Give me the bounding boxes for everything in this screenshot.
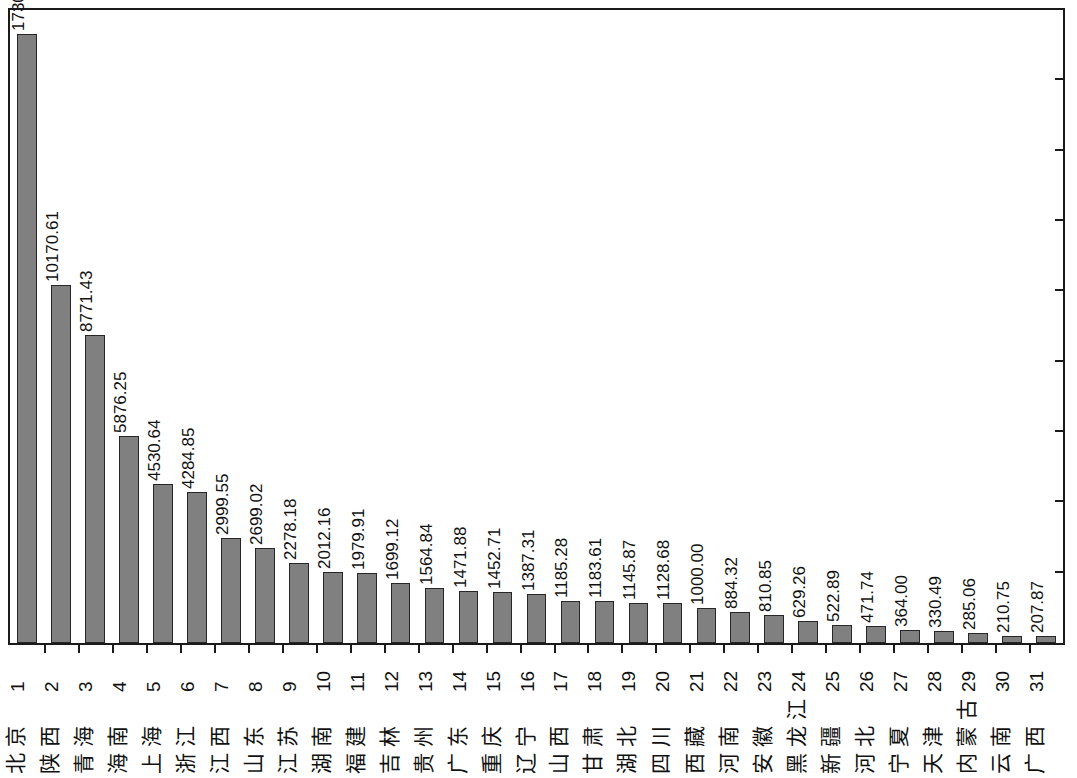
x-tick-slot [44,645,78,653]
bars-layer: 17308.0910170.618771.435876.254530.64428… [10,10,1063,643]
bar-value-label: 4530.64 [146,419,163,480]
x-category-label: 吉林 [380,720,401,774]
x-category-label: 安徽 [753,720,774,774]
x-tick-mark [112,645,114,653]
index-label-slot: 30 [995,656,1029,696]
x-tick-slot [78,645,112,653]
bar[interactable]: 471.74 [866,626,886,643]
bar[interactable]: 4530.64 [153,484,173,643]
x-tick-mark [655,645,657,653]
index-label-slot: 5 [146,656,180,696]
x-tick-mark [78,645,80,653]
index-label-slot: 7 [214,656,248,696]
x-tick-mark [927,645,929,653]
x-index-label: 18 [585,671,604,692]
index-label-slot: 11 [350,656,384,696]
bar[interactable]: 884.32 [730,612,750,643]
bar[interactable]: 2699.02 [255,548,275,643]
bar-value-label: 1387.31 [520,530,537,591]
bar-value-label: 2699.02 [248,484,265,545]
bar[interactable]: 10170.61 [51,285,71,643]
bar[interactable]: 17308.09 [17,34,37,643]
bar[interactable]: 1979.91 [357,573,377,643]
bar-value-label: 210.75 [995,581,1012,633]
x-tick-mark [452,645,454,653]
bar[interactable]: 8771.43 [85,335,105,643]
bar-slot: 4530.64 [146,10,180,643]
x-category-label: 陕西 [40,720,61,774]
x-tick-mark [791,645,793,653]
bar[interactable]: 1387.31 [527,594,547,643]
x-category-label: 辽宁 [516,720,537,774]
x-tick-slot [112,645,146,653]
bar[interactable]: 810.85 [764,615,784,644]
x-tick-mark [384,645,386,653]
x-category-label: 青海 [74,720,95,774]
x-index-label: 12 [382,671,401,692]
bar-slot: 1471.88 [452,10,486,643]
x-category-label: 海南 [108,720,129,774]
index-label-slot: 24 [791,656,825,696]
bar[interactable]: 1128.68 [663,603,683,643]
x-category-label: 四川 [651,720,672,774]
x-index-label: 19 [619,671,638,692]
bar-value-label: 1564.84 [418,524,435,585]
x-tick-slot [146,645,180,653]
bar-slot: 1128.68 [655,10,689,643]
bar[interactable]: 522.89 [832,625,852,643]
x-index-label: 5 [144,681,163,692]
x-category-label: 内蒙古 [957,693,978,774]
bar[interactable]: 1699.12 [391,583,411,643]
bar[interactable]: 1000.00 [697,608,717,643]
bar-value-label: 1183.61 [587,538,604,598]
x-tick-slot [757,645,791,653]
bar[interactable]: 5876.25 [119,436,139,643]
bar[interactable]: 2999.55 [221,538,241,643]
x-tick-slot [282,645,316,653]
bar-value-label: 884.32 [723,557,740,609]
bar[interactable]: 1471.88 [459,591,479,643]
bar[interactable]: 4284.85 [187,492,207,643]
bar-slot: 1145.87 [621,10,655,643]
x-tick-mark [689,645,691,653]
bar[interactable]: 364.00 [900,630,920,643]
bar[interactable]: 1452.71 [493,592,513,643]
bar[interactable]: 285.06 [968,633,988,643]
index-label-slot: 31 [1029,656,1063,696]
bar-slot: 522.89 [825,10,859,643]
bar-value-label: 330.49 [927,576,944,628]
x-index-label: 16 [518,671,537,692]
x-tick-mark [486,645,488,653]
bar[interactable]: 629.26 [798,621,818,643]
bar-value-label: 4284.85 [180,428,197,489]
bar[interactable]: 207.87 [1036,636,1056,643]
index-label-slot: 23 [757,656,791,696]
bar[interactable]: 1145.87 [629,603,649,643]
bar[interactable]: 1564.84 [425,588,445,643]
bar[interactable]: 2012.16 [323,572,343,643]
bar[interactable]: 330.49 [934,631,954,643]
x-category-label: 贵州 [414,720,435,774]
x-tick-mark [1029,645,1031,653]
x-axis-category-labels: 北京陕西青海海南上海浙江江西山东江苏湖南福建吉林贵州广东重庆辽宁山西甘肃湖北四川… [10,700,1063,778]
x-category-label: 云南 [991,720,1012,774]
bar-value-label: 285.06 [961,578,978,630]
bar-value-label: 629.26 [791,566,808,618]
index-label-slot: 2 [44,656,78,696]
bar[interactable]: 1183.61 [595,601,615,643]
index-label-slot: 26 [859,656,893,696]
x-tick-slot [214,645,248,653]
x-tick-slot [486,645,520,653]
bar[interactable]: 1185.28 [561,601,581,643]
index-label-slot: 6 [180,656,214,696]
bar-value-label: 2278.18 [282,498,299,559]
x-tick-slot [621,645,655,653]
bar-value-label: 1452.71 [486,527,503,588]
x-category-label: 甘肃 [583,720,604,774]
bar[interactable]: 2278.18 [289,563,309,643]
x-index-label: 8 [246,681,265,692]
x-index-label: 27 [891,671,910,692]
bar-slot: 2999.55 [214,10,248,643]
x-category-label: 福建 [346,720,367,774]
bar[interactable]: 210.75 [1002,636,1022,643]
